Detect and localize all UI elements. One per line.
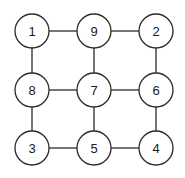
node-label-9: 9	[90, 24, 97, 39]
node-label-2: 2	[152, 24, 159, 39]
graph-node-2[interactable]: 2	[139, 14, 173, 48]
graph-node-1[interactable]: 1	[15, 14, 49, 48]
node-label-7: 7	[90, 83, 97, 98]
node-label-5: 5	[90, 141, 97, 156]
graph-node-6[interactable]: 6	[139, 73, 173, 107]
graph-node-9[interactable]: 9	[77, 14, 111, 48]
graph-diagram: 192876354	[0, 0, 185, 178]
node-label-1: 1	[28, 24, 35, 39]
graph-node-5[interactable]: 5	[77, 131, 111, 165]
node-layer: 192876354	[15, 14, 173, 165]
graph-node-3[interactable]: 3	[15, 131, 49, 165]
node-label-3: 3	[28, 141, 35, 156]
graph-canvas: 192876354	[0, 0, 185, 178]
node-label-4: 4	[152, 141, 159, 156]
node-label-6: 6	[152, 83, 159, 98]
graph-node-4[interactable]: 4	[139, 131, 173, 165]
graph-node-8[interactable]: 8	[15, 73, 49, 107]
node-label-8: 8	[28, 83, 35, 98]
graph-node-7[interactable]: 7	[77, 73, 111, 107]
